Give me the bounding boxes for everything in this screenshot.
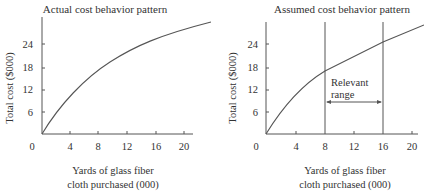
relevant-range-label-line2: range (331, 89, 355, 100)
x-tick-label: 8 (322, 141, 327, 152)
actual-cost-curve (266, 71, 325, 134)
y-tick-label: 6 (28, 107, 33, 118)
y-axis-label: Total cost ($000) (4, 52, 16, 124)
assumed-linear-cost-line (325, 25, 424, 71)
chart-actual: Actual cost behavior pattern Total cost … (4, 3, 211, 191)
x-tick-label: 20 (179, 141, 190, 152)
x-tick-label: 0 (253, 141, 258, 152)
x-tick-label: 4 (293, 141, 299, 152)
chart-title: Actual cost behavior pattern (43, 3, 168, 15)
x-tick-label: 20 (407, 141, 418, 152)
x-axis-label-line2: cloth purchased (000) (299, 179, 391, 191)
y-tick-label: 12 (248, 84, 259, 95)
x-tick-label: 4 (67, 141, 73, 152)
y-axis-label: Total cost ($000) (227, 52, 239, 124)
y-tick-label: 24 (23, 39, 34, 50)
chart-title: Assumed cost behavior pattern (274, 3, 410, 15)
charts-canvas: Actual cost behavior pattern Total cost … (0, 0, 424, 194)
y-tick-label: 24 (248, 39, 259, 50)
actual-cost-curve (42, 22, 211, 134)
x-axis-label-line2: cloth purchased (000) (67, 179, 159, 191)
x-axis-label-line1: Yards of glass fiber (72, 165, 154, 176)
x-tick-label: 16 (378, 141, 389, 152)
x-tick-label: 16 (151, 141, 162, 152)
y-tick-label: 12 (23, 84, 34, 95)
chart-assumed: Assumed cost behavior pattern Total cost… (227, 3, 424, 191)
x-tick-label: 12 (349, 141, 360, 152)
x-tick-label: 12 (122, 141, 133, 152)
x-tick-label: 8 (95, 141, 100, 152)
relevant-range-arrow (326, 100, 382, 104)
x-axis-label-line1: Yards of glass fiber (304, 165, 386, 176)
x-tick-label: 0 (29, 141, 34, 152)
y-tick-label: 18 (23, 62, 34, 73)
y-tick-label: 6 (253, 107, 258, 118)
relevant-range-label-line1: Relevant (331, 77, 368, 88)
y-tick-label: 18 (248, 62, 259, 73)
